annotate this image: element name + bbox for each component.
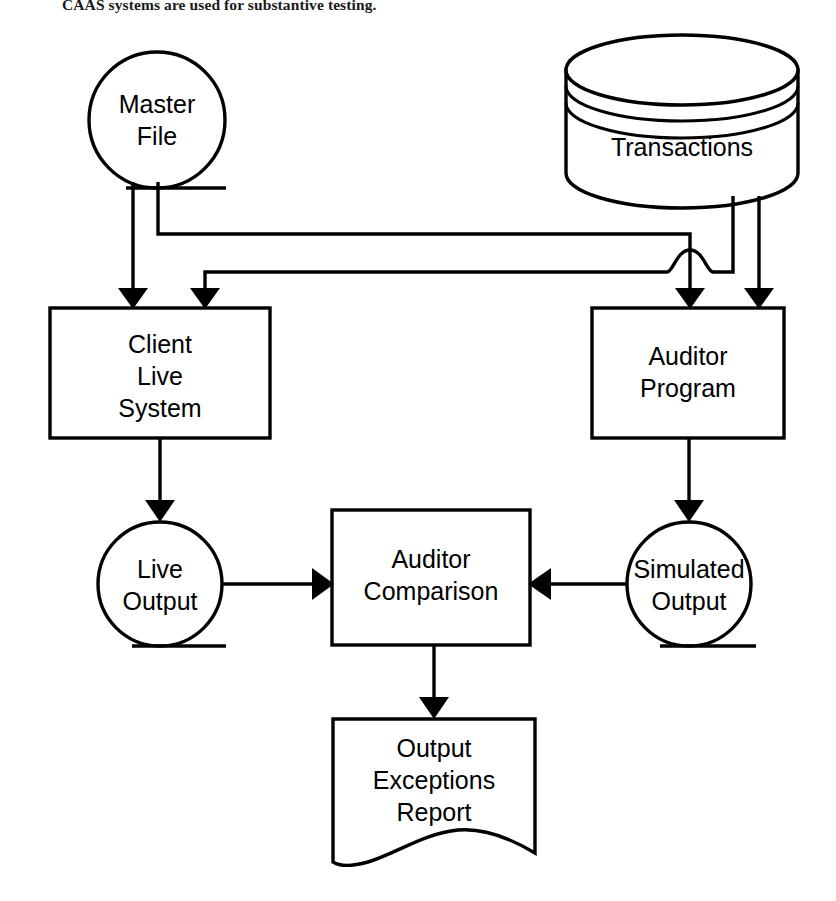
edge-transactions-to-client-line: [205, 196, 733, 288]
client-live-system-label-line-3: System: [118, 394, 201, 422]
auditor-program-label-line-2: Program: [640, 374, 736, 402]
live-output-label-line-1: Live: [137, 555, 183, 583]
simulated-output-circle: [627, 522, 751, 646]
live-output-circle: [98, 522, 222, 646]
live-output-label-line-2: Output: [122, 587, 197, 615]
transactions-cylinder-top: [566, 35, 798, 105]
simulated-output-label-line-1: Simulated: [633, 555, 744, 583]
flowchart-diagram: CAAS substantive testing parallel simula…: [0, 0, 836, 901]
transactions-label: Transactions: [611, 133, 753, 161]
auditor-comparison-label-line-2: Comparison: [364, 577, 499, 605]
master-file-label-line-1: Master: [119, 90, 195, 118]
edge-transactions-to-auditor: [744, 196, 774, 309]
edge-live-output-to-comparison: [222, 568, 334, 600]
edge-comparison-to-report-arrowhead: [419, 697, 449, 719]
auditor-program-box: [592, 308, 784, 438]
client-live-system-label-line-2: Live: [137, 362, 183, 390]
edge-client-to-live-output: [145, 438, 175, 522]
master-file-label-line-2: File: [137, 122, 177, 150]
node-transactions: Transactions: [566, 35, 798, 208]
node-live-output: Live Output: [98, 522, 226, 646]
output-exceptions-report-label-line-3: Report: [396, 798, 471, 826]
edge-comparison-to-report: [419, 645, 449, 719]
output-exceptions-report-label-line-1: Output: [396, 734, 471, 762]
client-live-system-label-line-1: Client: [128, 330, 192, 358]
edge-master-to-client-arrowhead: [118, 288, 148, 309]
node-client-live-system: Client Live System: [50, 308, 270, 438]
edge-master-to-auditor-arrowhead: [675, 288, 705, 309]
node-auditor-program: Auditor Program: [592, 308, 784, 438]
edge-auditor-to-simulated-output-arrowhead: [674, 500, 704, 522]
edge-client-to-live-output-arrowhead: [145, 500, 175, 522]
edge-auditor-to-simulated-output: [674, 438, 704, 522]
edge-transactions-to-client-arrowhead: [190, 288, 220, 309]
edge-transactions-to-client: [190, 196, 733, 309]
node-master-file: Master File: [89, 52, 226, 188]
output-exceptions-report-label-line-2: Exceptions: [373, 766, 495, 794]
node-auditor-comparison: Auditor Comparison: [332, 510, 530, 645]
master-file-circle: [89, 52, 225, 188]
edge-master-to-client: [118, 182, 148, 309]
auditor-comparison-label-line-1: Auditor: [391, 545, 470, 573]
edge-transactions-to-auditor-arrowhead: [744, 288, 774, 309]
node-simulated-output: Simulated Output: [627, 522, 756, 646]
edge-simulated-output-to-comparison: [528, 568, 627, 600]
node-output-exceptions-report: Output Exceptions Report: [333, 719, 535, 865]
simulated-output-label-line-2: Output: [651, 587, 726, 615]
auditor-program-label-line-1: Auditor: [648, 342, 727, 370]
